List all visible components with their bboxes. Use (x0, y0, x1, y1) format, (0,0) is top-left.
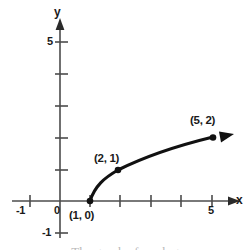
x-tick-label-neg1: -1 (16, 205, 25, 216)
point-annotation-2-1: (2, 1) (94, 153, 119, 165)
y-axis-arrowhead (56, 18, 65, 30)
curve-path (90, 137, 213, 201)
data-point-5-2 (210, 134, 217, 141)
point-annotation-5-2: (5, 2) (190, 115, 215, 127)
data-point-1-0 (87, 198, 94, 205)
x-tick-label-5: 5 (208, 205, 214, 216)
data-point-2-1 (115, 167, 122, 174)
y-axis-label: y (54, 6, 60, 18)
cropped-caption-text: The graph of y = log (0, 244, 250, 250)
y-tick-label-5: 5 (47, 36, 53, 47)
curve-arrowhead (219, 132, 234, 143)
y-tick-label-neg1: -1 (42, 227, 51, 238)
x-axis-label: x (236, 194, 242, 206)
graph-figure: y x 5 -1 5 -1 0 (1, 0) (2, 1) (5, 2) The… (0, 0, 250, 250)
point-annotation-1-0: (1, 0) (69, 210, 94, 222)
origin-label: 0 (54, 205, 60, 216)
